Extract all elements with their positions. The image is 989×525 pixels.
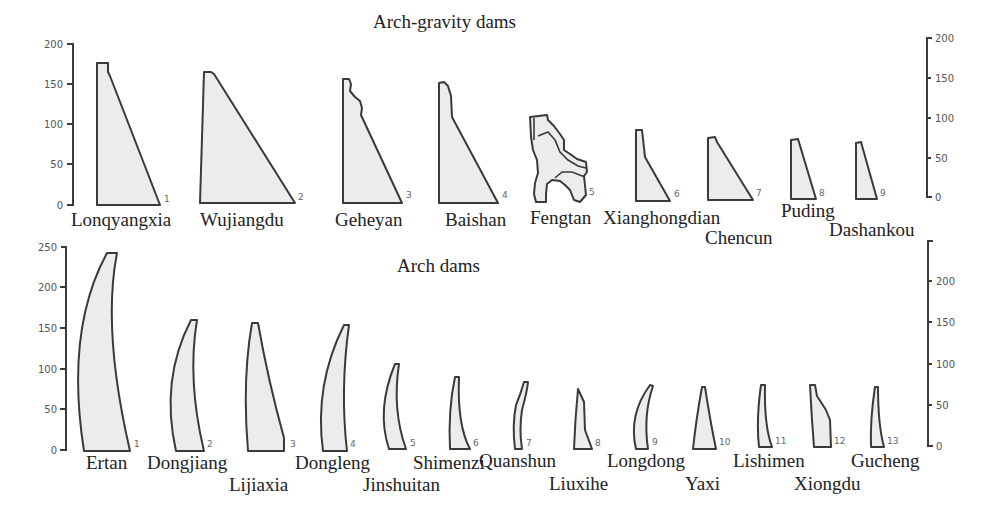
dam-number: 7 xyxy=(756,188,762,198)
dam-dongleng: 4 Dongleng xyxy=(295,325,370,473)
panel-title-arch: Arch dams xyxy=(397,255,480,276)
dam-dashankou: 9 Dashankou xyxy=(829,142,915,240)
tick-label: 0 xyxy=(51,445,57,456)
dam-number: 8 xyxy=(819,188,825,198)
dam-number: 7 xyxy=(526,438,532,448)
dam-name: Ertan xyxy=(86,452,128,473)
dam-number: 1 xyxy=(164,194,170,204)
dam-xianghongdian: 6 Xianghongdian xyxy=(603,130,721,228)
tick-label: 0 xyxy=(57,200,63,211)
dam-name: Lishimen xyxy=(733,450,805,471)
dam-number: 9 xyxy=(652,437,658,447)
right-y-axis-bottom: 0 50 100 150 200 xyxy=(928,241,955,452)
dam-name: Liuxihe xyxy=(549,473,608,494)
dam-name: Shimenzi xyxy=(413,452,485,473)
dam-number: 3 xyxy=(406,190,412,200)
dam-geheyan: 3 Geheyan xyxy=(335,79,412,230)
tick-label: 200 xyxy=(935,33,954,44)
dam-ertan: 1 Ertan xyxy=(78,253,140,473)
dam-name: Lonqyangxia xyxy=(71,209,172,230)
dam-name: Wujiangdu xyxy=(200,209,284,230)
dam-number: 10 xyxy=(719,437,731,447)
dam-jinshuitan: 5 Jinshuitan xyxy=(363,364,441,495)
dam-number: 3 xyxy=(290,439,296,449)
dam-number: 6 xyxy=(674,189,680,199)
dam-name: Dongleng xyxy=(295,452,370,473)
dam-gucheng: 13 Gucheng xyxy=(851,387,920,471)
dam-name: Xianghongdian xyxy=(603,207,721,228)
dam-lonqyangxia: 1 Lonqyangxia xyxy=(71,63,172,230)
dam-number: 5 xyxy=(410,438,416,448)
dam-name: Longdong xyxy=(607,450,686,471)
dam-baishan: 4 Baishan xyxy=(439,82,508,230)
dam-xiongdu: 12 Xiongdu xyxy=(794,385,861,494)
tick-label: 0 xyxy=(936,441,942,452)
dam-name: Lijiaxia xyxy=(229,474,289,495)
dam-name: Fengtan xyxy=(530,207,592,228)
dam-shimenzi: 6 Shimenzi xyxy=(413,377,485,473)
tick-label: 50 xyxy=(936,400,949,411)
left-y-axis-bottom: 0 50 100 150 200 250 xyxy=(38,242,66,456)
dam-name: Baishan xyxy=(445,209,507,230)
dam-name: Chencun xyxy=(705,227,773,248)
tick-label: 50 xyxy=(50,159,63,170)
dam-name: Quanshun xyxy=(479,450,557,471)
dam-number: 9 xyxy=(880,188,886,198)
dam-chencun: 7 Chencun xyxy=(705,137,773,248)
dam-quanshun: 7 Quanshun xyxy=(479,382,557,471)
dam-number: 6 xyxy=(473,438,479,448)
dam-liuxihe: 8 Liuxihe xyxy=(549,389,608,494)
dam-name: Xiongdu xyxy=(794,473,861,494)
dam-name: Puding xyxy=(781,200,835,221)
left-y-axis-top: 0 50 100 150 200 xyxy=(44,39,73,211)
dam-name: Dashankou xyxy=(829,219,915,240)
tick-label: 100 xyxy=(936,359,955,370)
dam-wujiangdu: 2 Wujiangdu xyxy=(200,72,304,230)
dam-yaxi: 10 Yaxi xyxy=(685,387,731,494)
dam-puding: 8 Puding xyxy=(781,139,835,221)
dam-number: 8 xyxy=(595,438,601,448)
right-y-axis-top: 0 50 100 150 200 xyxy=(927,33,954,203)
dam-number: 4 xyxy=(502,190,508,200)
tick-label: 150 xyxy=(936,317,955,328)
dam-name: Jinshuitan xyxy=(363,474,441,495)
dam-number: 1 xyxy=(134,439,140,449)
tick-label: 100 xyxy=(44,119,63,130)
dam-number: 2 xyxy=(298,192,304,202)
tick-label: 200 xyxy=(44,39,63,50)
dam-name: Gucheng xyxy=(851,450,920,471)
dam-number: 11 xyxy=(775,436,786,446)
tick-label: 250 xyxy=(38,242,57,253)
dam-number: 13 xyxy=(887,436,898,446)
tick-label: 150 xyxy=(38,323,57,334)
dam-fengtan: 5 Fengtan xyxy=(530,115,595,228)
tick-label: 50 xyxy=(44,404,57,415)
tick-label: 100 xyxy=(935,113,954,124)
dam-name: Yaxi xyxy=(685,473,720,494)
dam-lijiaxia: 3 Lijiaxia xyxy=(229,323,296,495)
tick-label: 200 xyxy=(936,276,955,287)
tick-label: 200 xyxy=(38,282,57,293)
dam-lishimen: 11 Lishimen xyxy=(733,385,805,471)
tick-label: 150 xyxy=(44,79,63,90)
dam-name: Dongjiang xyxy=(147,452,228,473)
dam-number: 5 xyxy=(589,187,595,197)
dam-sections-figure: Arch-gravity dams 0 50 100 150 200 0 50 … xyxy=(0,0,989,525)
dam-longdong: 9 Longdong xyxy=(607,385,686,471)
dam-number: 12 xyxy=(834,436,845,446)
dam-name: Geheyan xyxy=(335,209,403,230)
panel-title-arch-gravity: Arch-gravity dams xyxy=(373,11,516,32)
tick-label: 0 xyxy=(935,192,941,203)
dam-number: 4 xyxy=(350,439,356,449)
tick-label: 50 xyxy=(935,153,948,164)
dam-number: 2 xyxy=(207,439,213,449)
tick-label: 100 xyxy=(38,364,57,375)
dam-dongjiang: 2 Dongjiang xyxy=(147,320,228,473)
tick-label: 150 xyxy=(935,73,954,84)
